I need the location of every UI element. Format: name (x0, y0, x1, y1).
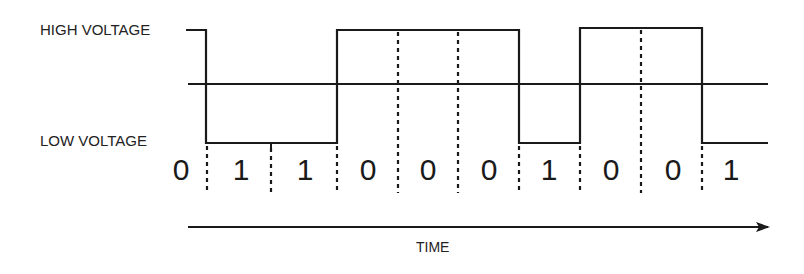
time-axis-label: TIME (416, 239, 449, 255)
bit-digit: 0 (658, 155, 688, 185)
bit-digit: 1 (290, 155, 320, 185)
bit-digit: 1 (226, 155, 256, 185)
bit-digit: 1 (534, 155, 564, 185)
low-voltage-label: LOW VOLTAGE (40, 132, 147, 149)
bit-digit: 1 (716, 155, 746, 185)
bit-digit: 0 (474, 155, 504, 185)
bit-boundaries (207, 30, 702, 193)
bit-digit: 0 (166, 155, 196, 185)
high-voltage-label: HIGH VOLTAGE (40, 21, 150, 38)
signal-waveform (186, 28, 768, 143)
voltage-timing-diagram: HIGH VOLTAGE LOW VOLTAGE TIME 0 1 1 0 0 … (0, 0, 804, 274)
bit-digit: 0 (353, 155, 383, 185)
bit-digit: 0 (413, 155, 443, 185)
bit-digit: 0 (596, 155, 626, 185)
